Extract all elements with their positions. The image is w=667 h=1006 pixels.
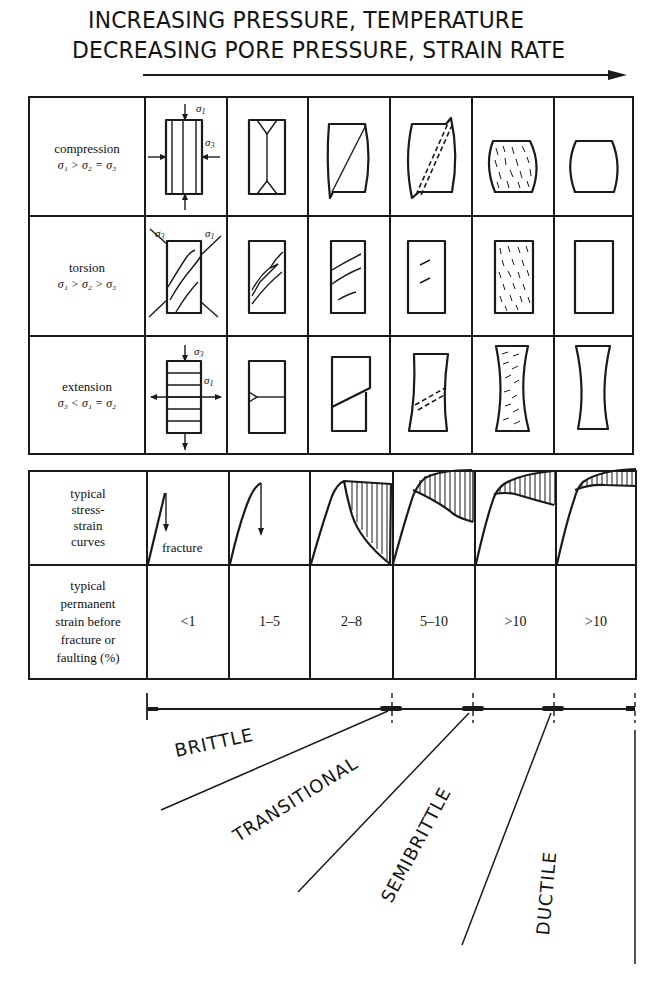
- row-label-text: compression: [54, 140, 120, 157]
- row-label-compression: compression σ₁ > σ₂ = σ₃: [29, 97, 145, 216]
- stress-strain-curve-4: [393, 470, 473, 564]
- label-line: permanent: [61, 595, 116, 613]
- extension-specimen-2: [249, 361, 285, 433]
- fracture-label: fracture: [162, 540, 202, 556]
- label-line: strain: [74, 518, 103, 534]
- compression-specimen-3: [328, 124, 369, 198]
- direction-arrow-icon: [143, 70, 627, 80]
- strain-value: >10: [556, 565, 636, 679]
- compression-specimen-1: σ1 σ3: [148, 102, 220, 210]
- extension-specimen-6: [576, 346, 610, 429]
- row-label-text: torsion: [69, 259, 105, 276]
- svg-text:σ1: σ1: [205, 227, 214, 241]
- torsion-specimen-1: σ3 σ1: [149, 227, 221, 317]
- label-line: fracture or: [61, 631, 116, 649]
- strain-value: >10: [475, 565, 556, 679]
- stress-strain-curve-5: [476, 471, 555, 564]
- strain-value: 5–10: [393, 565, 475, 679]
- label-line: faulting (%): [56, 649, 119, 667]
- extension-specimen-3: [332, 357, 370, 431]
- row-label-condition: σ₁ > σ₂ > σ₃: [58, 276, 116, 293]
- row-label-torsion: torsion σ₁ > σ₂ > σ₃: [29, 216, 145, 336]
- compression-specimen-4: [408, 118, 455, 198]
- row-label-stress-strain: typical stress- strain curves: [29, 471, 147, 565]
- extension-specimen-1: σ3 σ1: [150, 345, 222, 450]
- row-label-extension: extension σ₃ < σ₁ = σ₂: [29, 336, 145, 454]
- torsion-specimen-6: [575, 241, 613, 313]
- svg-text:σ3: σ3: [194, 345, 203, 359]
- strain-value: 2–8: [310, 565, 393, 679]
- stress-strain-curve-2: [230, 483, 264, 564]
- row-label-condition: σ₁ > σ₂ = σ₃: [58, 157, 116, 174]
- torsion-specimen-5: [495, 241, 533, 313]
- strain-value: 1–5: [229, 565, 310, 679]
- svg-text:σ1: σ1: [204, 374, 213, 388]
- label-line: curves: [71, 534, 105, 550]
- row-label-permanent-strain: typical permanent strain before fracture…: [29, 565, 147, 679]
- label-line: typical: [70, 577, 105, 595]
- strain-value: <1: [147, 565, 229, 679]
- regime-scale-bar: [147, 693, 635, 723]
- svg-text:σ3: σ3: [155, 227, 164, 241]
- svg-text:σ3: σ3: [205, 136, 214, 150]
- compression-specimen-6: [570, 141, 617, 192]
- compression-specimen-2: [249, 120, 285, 194]
- label-line: strain before: [55, 613, 120, 631]
- torsion-specimen-3: [331, 241, 365, 313]
- torsion-specimen-2: [249, 241, 285, 313]
- label-line: typical: [70, 486, 105, 502]
- stress-strain-curve-3: [311, 481, 391, 564]
- stress-strain-curve-6: [557, 469, 636, 564]
- row-label-text: extension: [62, 378, 112, 395]
- extension-specimen-5: [496, 346, 529, 431]
- torsion-specimen-4: [408, 241, 445, 313]
- row-label-condition: σ₃ < σ₁ = σ₂: [58, 395, 116, 412]
- label-line: stress-: [71, 502, 104, 518]
- svg-text:σ1: σ1: [196, 102, 205, 116]
- compression-specimen-5: [489, 141, 537, 192]
- extension-specimen-4: [409, 354, 448, 431]
